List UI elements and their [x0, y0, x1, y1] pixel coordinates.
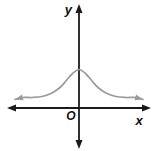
x-axis-right-arrow-icon — [142, 105, 151, 112]
curve-left-arrow-icon — [15, 94, 24, 100]
y-axis-down-arrow-icon — [76, 140, 83, 149]
y-axis-up-arrow-icon — [76, 4, 83, 13]
coordinate-plane: y x O — [0, 0, 159, 151]
x-axis-left-arrow-icon — [7, 105, 16, 112]
x-axis-label: x — [134, 113, 143, 128]
y-axis-label: y — [64, 2, 73, 17]
origin-label: O — [66, 109, 76, 123]
function-graph-figure: y x O — [0, 0, 159, 151]
curve-right-arrow-icon — [134, 94, 143, 100]
